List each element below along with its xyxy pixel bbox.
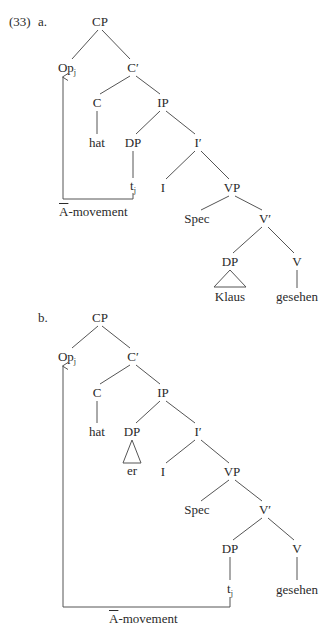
- tree-b-node-c: C: [93, 386, 102, 400]
- tree-b-node-spec: Spec: [184, 503, 209, 517]
- tree-b-leaf-gesehen: gesehen: [276, 583, 318, 597]
- example-number: (33): [9, 15, 31, 29]
- tree-b-node-ibar: I′: [194, 425, 201, 439]
- tree-a-node-dp-obj: DP: [222, 255, 239, 269]
- op-index: j: [74, 68, 76, 77]
- tree-b-node-cp: CP: [92, 311, 108, 325]
- tree-a-leaf-hat: hat: [89, 136, 105, 150]
- tree-b-leaf-er: er: [127, 464, 137, 478]
- tree-a-movement-label: A-movement: [59, 205, 128, 219]
- tree-a-leaf-klaus: Klaus: [215, 290, 245, 304]
- tree-a-node-dp-subj: DP: [125, 136, 142, 150]
- tree-b-node-ip: IP: [157, 386, 169, 400]
- trace-index: j: [231, 589, 233, 598]
- op-text: Op: [58, 349, 74, 364]
- movement-text: -movement: [68, 204, 127, 219]
- tree-b-node-dp-obj: DP: [222, 542, 239, 556]
- tree-a-node-vbar: V′: [259, 212, 271, 226]
- tree-b-node-dp-subj: DP: [124, 425, 141, 439]
- tree-a-node-v: V: [292, 255, 301, 269]
- tree-a-node-cbar: C′: [127, 61, 139, 75]
- tree-b-node-v: V: [292, 542, 301, 556]
- tree-b-node-i: I: [161, 465, 165, 479]
- op-index: j: [74, 357, 76, 366]
- tree-a-node-cp: CP: [92, 15, 108, 29]
- tree-a-node-i: I: [161, 181, 165, 195]
- tree-a-leaf-gesehen: gesehen: [276, 290, 318, 304]
- tree-b-node-vp: VP: [224, 465, 241, 479]
- tree-b-movement-label: A-movement: [109, 612, 178, 626]
- tree-b-node-op: Opj: [58, 350, 76, 364]
- tree-a-trace: tj: [130, 179, 136, 193]
- op-text: Op: [58, 60, 74, 75]
- movement-text: -movement: [118, 611, 177, 626]
- tree-a-node-c: C: [93, 96, 102, 110]
- tree-a-node-vp: VP: [224, 181, 241, 195]
- tree-a-node-spec: Spec: [184, 212, 209, 226]
- trace-index: j: [134, 186, 136, 195]
- tree-a-label: a.: [38, 15, 47, 29]
- tree-a-node-ibar: I′: [194, 136, 201, 150]
- a-bar: A: [109, 611, 118, 626]
- tree-b-trace: tj: [227, 582, 233, 596]
- tree-a-node-ip: IP: [157, 96, 169, 110]
- tree-a-node-op: Opj: [58, 61, 76, 75]
- tree-b-label: b.: [38, 311, 48, 325]
- a-bar: A: [59, 204, 68, 219]
- tree-b-node-cbar: C′: [127, 350, 139, 364]
- tree-b-leaf-hat: hat: [89, 425, 105, 439]
- tree-b-node-vbar: V′: [259, 503, 271, 517]
